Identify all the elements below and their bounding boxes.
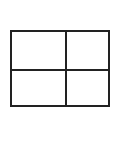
horizontal-divider xyxy=(12,69,108,71)
two-by-two-grid xyxy=(10,30,110,107)
diagram-canvas xyxy=(0,0,115,142)
